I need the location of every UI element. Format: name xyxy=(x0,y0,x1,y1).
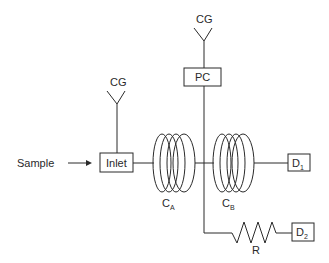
pc-vertical-line xyxy=(204,86,232,233)
cg-inlet-supply-icon xyxy=(107,91,125,153)
detector-2-box: D2 xyxy=(292,223,314,241)
column-b-label: CB xyxy=(222,197,235,211)
inlet-box: Inlet xyxy=(100,153,133,172)
restrictor-label: R xyxy=(252,244,260,256)
column-a-label: CA xyxy=(162,197,175,211)
cg-inlet-label: CG xyxy=(110,76,127,88)
sample-arrow-icon xyxy=(68,160,92,166)
cg-pc-label: CG xyxy=(196,13,213,25)
sample-label: Sample xyxy=(17,157,54,169)
column-a-coil-icon xyxy=(153,134,195,192)
detector-1-box: D1 xyxy=(288,154,310,171)
gc-schematic-diagram: Sample CG Inlet CA CG PC xyxy=(0,0,329,263)
column-b-coil-icon xyxy=(213,134,254,192)
restrictor-icon xyxy=(232,222,292,243)
pc-box: PC xyxy=(184,68,221,86)
cg-pc-supply-icon xyxy=(194,28,212,68)
inlet-label: Inlet xyxy=(106,157,127,169)
pc-label: PC xyxy=(195,71,210,83)
